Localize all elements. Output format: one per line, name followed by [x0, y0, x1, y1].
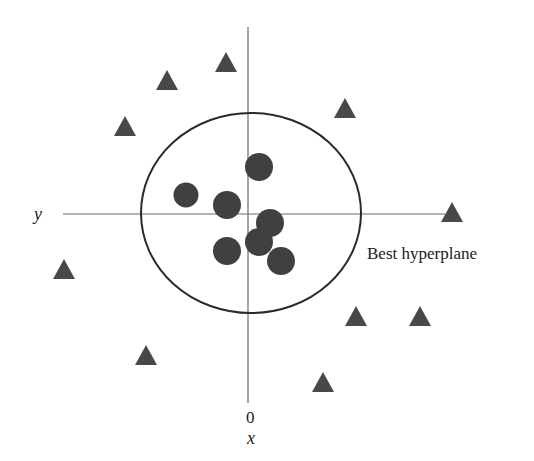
- triangle-point: [114, 116, 136, 136]
- triangle-point: [334, 98, 356, 118]
- circle-point: [245, 153, 273, 181]
- x-axis-label: x: [246, 428, 255, 448]
- best-hyperplane-boundary: [141, 113, 361, 313]
- circle-point: [213, 191, 241, 219]
- triangle-point: [156, 70, 178, 90]
- triangle-point: [409, 306, 431, 326]
- triangle-point: [215, 52, 237, 72]
- triangle-point: [312, 372, 334, 392]
- triangle-point: [345, 306, 367, 326]
- triangle-point: [135, 345, 157, 365]
- best-hyperplane-label: Best hyperplane: [367, 244, 477, 263]
- hyperplane-diagram: y 0 x Best hyperplane: [0, 0, 534, 461]
- circle-point: [213, 237, 241, 265]
- circle-point: [174, 183, 199, 208]
- circle-point: [267, 247, 295, 275]
- triangle-point: [53, 259, 75, 279]
- origin-label: 0: [246, 408, 255, 427]
- triangle-point: [441, 202, 463, 222]
- y-axis-label: y: [32, 204, 42, 224]
- circle-point: [245, 228, 273, 256]
